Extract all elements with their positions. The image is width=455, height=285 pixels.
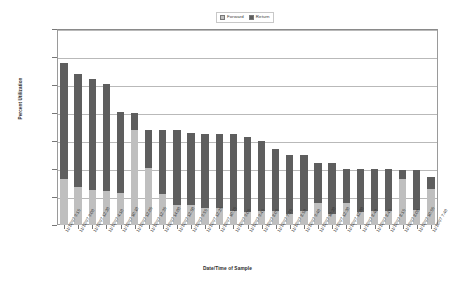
bar-stack [103,84,110,225]
bar-segment-return [201,134,208,208]
bar-segment-return [187,133,194,206]
bar-segment-return [427,177,434,188]
bar-segment-return [314,163,321,202]
bar-segment-return [216,134,223,208]
bar-segment-return [89,79,96,190]
bar-stack [89,79,96,225]
utilization-stacked-bar-chart: Forward Return Percent Utilization 0%20%… [0,0,455,285]
bar-segment-return [300,155,307,211]
bar-segment-return [117,112,124,193]
bar-segment-return [159,130,166,194]
bar-segment-return [258,141,265,211]
chart-legend: Forward Return [216,12,274,23]
y-axis-title: Percent Utilization [18,59,23,139]
legend-entry-forward: Forward [220,15,244,20]
legend-swatch-forward-icon [220,15,225,20]
bars-layer [57,29,438,225]
legend-label-forward: Forward [227,15,244,19]
bar-segment-return [413,170,420,209]
legend-swatch-return-icon [249,15,254,20]
bar-segment-return [371,169,378,211]
bar-segment-return [60,63,67,179]
legend-label-return: Return [256,15,270,19]
x-axis-title: Date/Time of Sample [0,266,455,271]
bar-segment-return [131,113,138,130]
bar-segment-return [244,137,251,213]
bar-segment-return [74,74,81,187]
bar-segment-return [230,134,237,211]
y-axis-tick [52,225,57,226]
bar-segment-return [343,169,350,203]
bar-segment-return [103,84,110,192]
legend-entry-return: Return [249,15,270,20]
bar-segment-return [272,149,279,211]
bar-stack [74,74,81,225]
bar-segment-return [145,130,152,168]
bar-segment-return [286,155,293,214]
bar-segment-return [385,169,392,211]
bar-segment-return [173,130,180,206]
bar-segment-return [399,170,406,178]
bar-stack [60,63,67,225]
bar-segment-forward [60,179,67,225]
